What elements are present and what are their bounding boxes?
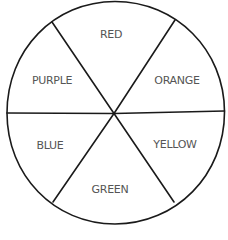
segment-label-yellow: YELLOW bbox=[153, 138, 196, 151]
segment-label-orange: ORANGE bbox=[154, 74, 199, 87]
segment-label-purple: PURPLE bbox=[32, 74, 72, 87]
segment-label-red: RED bbox=[100, 28, 122, 41]
segment-label-green: GREEN bbox=[92, 183, 129, 196]
divider-diagonal-right bbox=[53, 20, 175, 202]
segment-label-blue: BLUE bbox=[37, 139, 64, 152]
